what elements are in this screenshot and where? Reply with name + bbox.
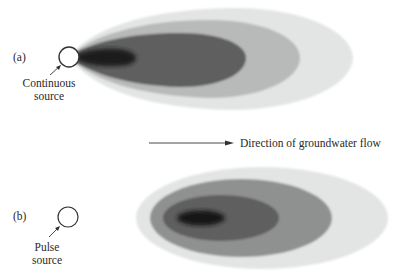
pulse-source-circle	[58, 207, 78, 227]
panel-a-label: (a)	[13, 51, 26, 64]
continuous-source-circle	[59, 47, 79, 67]
flow-direction-label: Direction of groundwater flow	[240, 137, 381, 150]
pulse-source-label: Pulse source	[22, 241, 72, 267]
pulse-source-label-line1: Pulse	[22, 241, 72, 254]
continuous-source-label: Continuous source	[14, 77, 84, 103]
pulse-plume	[136, 167, 388, 269]
continuous-source-label-line2: source	[14, 90, 84, 103]
pulse-zone-core	[177, 211, 225, 226]
panel-b-label: (b)	[13, 210, 26, 223]
flow-arrow-head	[225, 141, 234, 146]
continuous-source-label-line1: Continuous	[14, 77, 84, 90]
pulse-source-label-line2: source	[22, 254, 72, 267]
